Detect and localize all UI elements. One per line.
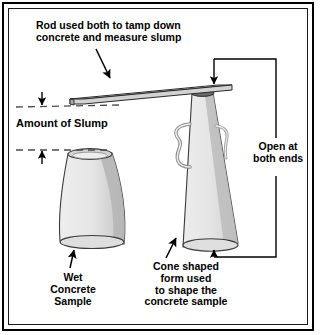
- label-open-both-ends: Open at both ends: [253, 141, 303, 165]
- slump-cone: [176, 90, 238, 252]
- label-tamping-rod: Rod used both to tamp down concrete and …: [36, 20, 181, 44]
- rod-tip: [70, 99, 74, 105]
- reference-line-original-height: [16, 105, 120, 107]
- slump-test-diagram: Rod used both to tamp down concrete and …: [0, 0, 320, 335]
- leader-rod: [96, 49, 110, 78]
- wet-concrete-sample: [59, 149, 124, 249]
- leader-wet-sample: [70, 250, 74, 268]
- label-wet-concrete-sample: Wet Concrete Sample: [40, 272, 106, 307]
- sample-base: [60, 236, 124, 249]
- cone-bottom-opening: [183, 239, 238, 251]
- leader-cone-form: [166, 238, 176, 258]
- sample-top-inner: [73, 152, 108, 159]
- bracket-top-arm: [214, 59, 276, 138]
- label-cone-shaped-form: Cone shaped form used to shape the concr…: [130, 261, 242, 308]
- label-amount-of-slump: Amount of Slump: [16, 117, 108, 129]
